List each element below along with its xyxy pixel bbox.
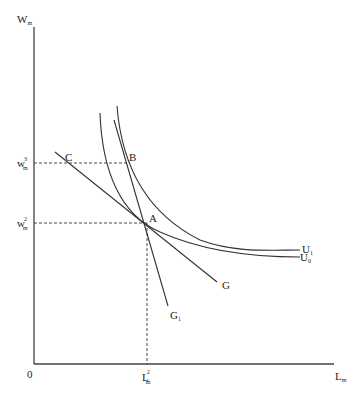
x-axis-label: Lm <box>335 370 347 383</box>
curve-label-g1: G1 <box>170 309 181 322</box>
indifference-curve-u1 <box>117 106 300 250</box>
origin-label: 0 <box>27 368 33 380</box>
indifference-curve-u0 <box>100 113 300 257</box>
line-g1 <box>114 120 168 306</box>
point-label-a: A <box>149 212 157 224</box>
y-axis-label: Wm <box>17 13 32 26</box>
line-g <box>55 152 217 282</box>
y-tick-w2: w2m <box>17 216 28 231</box>
point-label-b: B <box>129 151 136 163</box>
curve-label-g: G <box>222 279 230 291</box>
x-tick-l2: L2m <box>142 369 151 385</box>
y-tick-w3: w3m <box>17 156 28 171</box>
economics-diagram: Wm Lm 0 w3m w2m L2m C B A U1 U0 G G1 <box>0 0 359 394</box>
point-label-c: C <box>65 151 72 163</box>
